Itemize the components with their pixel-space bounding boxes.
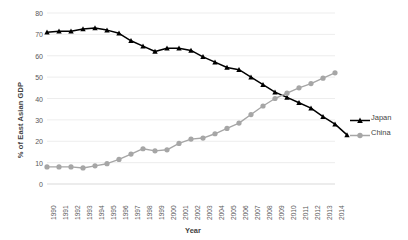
data-point <box>248 112 253 117</box>
x-tick-label: 1992 <box>74 205 81 220</box>
y-tick-label: 50 <box>3 74 43 81</box>
gridlines <box>47 13 335 184</box>
x-tick-label: 1998 <box>146 205 153 220</box>
x-tick-label: 2000 <box>170 205 177 220</box>
data-point <box>104 161 109 166</box>
data-point <box>320 76 325 81</box>
data-point <box>152 148 157 153</box>
y-tick-label: 30 <box>3 116 43 123</box>
x-axis-tick-labels: 1990199119921993199419951996199719981999… <box>47 186 335 226</box>
triangle-marker-icon <box>350 112 370 123</box>
chart-legend: JapanChina <box>350 110 408 140</box>
plot-svg <box>47 13 335 184</box>
x-tick-label: 2008 <box>266 205 273 220</box>
x-tick-label: 1995 <box>110 205 117 220</box>
legend-label: Japan <box>371 113 391 122</box>
y-tick-label: 80 <box>3 10 43 17</box>
x-tick-label: 2006 <box>242 205 249 220</box>
y-tick-label: 70 <box>3 31 43 38</box>
x-tick-label: 2004 <box>218 205 225 220</box>
y-tick-label: 10 <box>3 159 43 166</box>
data-point <box>236 120 241 125</box>
series-line-japan <box>47 28 347 135</box>
y-tick-label: 20 <box>3 138 43 145</box>
data-point <box>68 164 73 169</box>
x-tick-label: 2003 <box>206 205 213 220</box>
chart-container: % of East Asian GDP 01020304050607080 19… <box>0 0 408 240</box>
data-point <box>284 91 289 96</box>
x-tick-label: 2010 <box>290 205 297 220</box>
data-point <box>200 135 205 140</box>
x-tick-label: 1993 <box>86 205 93 220</box>
data-point <box>44 164 49 169</box>
legend-item-japan[interactable]: Japan <box>350 110 408 125</box>
series-layer <box>44 25 349 170</box>
data-point <box>176 141 181 146</box>
y-axis-tick-labels: 01020304050607080 <box>0 13 43 184</box>
data-point <box>140 146 145 151</box>
data-point <box>272 96 277 101</box>
x-axis-title: Year <box>43 226 343 235</box>
x-tick-label: 2002 <box>194 205 201 220</box>
legend-item-china[interactable]: China <box>350 125 408 140</box>
x-tick-label: 2012 <box>314 205 321 220</box>
data-point <box>212 131 217 136</box>
x-tick-label: 1997 <box>134 205 141 220</box>
x-tick-label: 1999 <box>158 205 165 220</box>
circle-marker-icon <box>350 127 370 138</box>
x-tick-label: 2014 <box>338 205 345 220</box>
x-tick-label: 2011 <box>302 206 309 220</box>
x-tick-label: 1994 <box>98 205 105 220</box>
series-line-china <box>47 73 335 168</box>
plot-area <box>47 13 335 184</box>
x-tick-label: 2009 <box>278 205 285 220</box>
x-tick-label: 2005 <box>230 205 237 220</box>
y-tick-label: 40 <box>3 95 43 102</box>
data-point <box>188 137 193 142</box>
data-point <box>56 164 61 169</box>
legend-label: China <box>371 128 391 137</box>
data-point <box>164 147 169 152</box>
data-point <box>308 81 313 86</box>
data-point <box>128 151 133 156</box>
x-tick-label: 1996 <box>122 205 129 220</box>
data-point <box>332 70 337 75</box>
data-point <box>260 103 265 108</box>
x-tick-label: 2007 <box>254 205 261 220</box>
x-tick-label: 2013 <box>326 205 333 220</box>
data-point <box>116 157 121 162</box>
y-tick-label: 0 <box>3 181 43 188</box>
data-point <box>296 85 301 90</box>
x-tick-label: 2001 <box>182 205 189 220</box>
data-point <box>224 126 229 131</box>
y-tick-label: 60 <box>3 52 43 59</box>
x-tick-label: 1991 <box>62 205 69 220</box>
data-point <box>80 165 85 170</box>
data-point <box>92 163 97 168</box>
x-tick-label: 1990 <box>50 205 57 220</box>
